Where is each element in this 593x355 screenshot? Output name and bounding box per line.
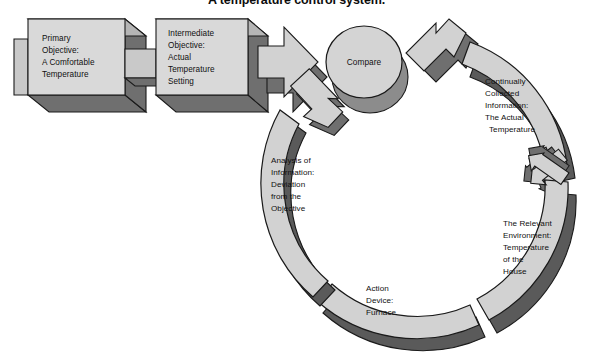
intermediate-objective-line-4: Temperature — [168, 65, 215, 74]
primary-objective-line-4: Temperature — [42, 70, 89, 79]
analysis-line-5: Objective — [271, 204, 306, 213]
relevant-environment-line-4: of the — [503, 255, 524, 264]
relevant-environment-line-1: The Relevant — [503, 219, 552, 228]
action-device-line-2: Device: — [366, 296, 393, 305]
action-device-line-1: Action — [366, 284, 389, 293]
primary-objective-front-face — [28, 19, 125, 95]
node-action-device[interactable]: Action Device: Furnace — [317, 284, 485, 351]
action-device-face — [317, 284, 479, 339]
primary-objective-tail — [14, 39, 28, 95]
relevant-environment-line-3: Temperature — [503, 243, 549, 252]
diagram-canvas: A temperature control system. Primary — [0, 0, 593, 355]
relevant-environment-line-5: House — [503, 267, 527, 276]
collected-info-line-1: Continually — [485, 77, 526, 86]
collected-info-line-5: Temperature — [489, 125, 535, 134]
primary-objective-line-1: Primary — [42, 34, 71, 43]
analysis-line-4: from the — [271, 192, 302, 201]
primary-objective-line-2: Objective: — [42, 46, 79, 55]
analysis-line-2: Information: — [271, 168, 314, 177]
collected-info-line-2: Collected — [485, 89, 519, 98]
intermediate-objective-line-5: Setting — [168, 77, 194, 86]
intermediate-objective-line-3: Actual — [168, 53, 191, 62]
node-intermediate-objective[interactable]: Intermediate Objective: Actual Temperatu… — [156, 19, 268, 112]
connector-shaft-1 — [125, 49, 156, 78]
intermediate-objective-line-1: Intermediate — [168, 29, 215, 38]
primary-objective-line-3: A Comfortable — [42, 58, 95, 67]
collected-info-line-3: Information: — [485, 101, 528, 110]
node-relevant-environment[interactable]: The Relevant Environment: Temperature of… — [477, 180, 576, 333]
compare-label: Compare — [347, 57, 382, 67]
temperature-control-system-diagram: Primary Objective: A Comfortable Tempera… — [0, 0, 593, 355]
action-device-line-3: Furnace — [366, 308, 396, 317]
intermediate-objective-line-2: Objective: — [168, 41, 205, 50]
relevant-environment-line-2: Environment: — [503, 231, 551, 240]
collected-info-line-4: The Actual — [485, 113, 524, 122]
analysis-line-3: Deviation — [271, 180, 305, 189]
node-analysis-of-information[interactable]: Analysis of Information: Deviation from … — [261, 110, 335, 306]
analysis-line-1: Analysis of — [271, 156, 311, 165]
